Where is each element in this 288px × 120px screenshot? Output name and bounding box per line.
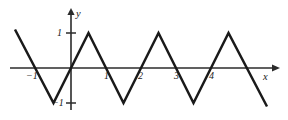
y-axis bbox=[67, 8, 74, 110]
x-tick-label-2: 2 bbox=[138, 71, 143, 81]
x-tick-label-4: 4 bbox=[209, 71, 214, 81]
plot-canvas bbox=[0, 0, 288, 120]
x-axis bbox=[10, 64, 280, 71]
x-tick-label-3: 3 bbox=[174, 71, 179, 81]
y-axis-arrow-icon bbox=[67, 8, 74, 15]
triangle-wave-figure: y x 1 −1 −1 1 2 3 4 bbox=[0, 0, 288, 120]
x-axis-label: x bbox=[263, 72, 268, 83]
x-tick-label-1: 1 bbox=[104, 71, 109, 81]
y-axis-label: y bbox=[76, 9, 81, 20]
y-tick-label-neg1: −1 bbox=[52, 98, 64, 108]
x-axis-arrow-icon bbox=[272, 64, 280, 71]
y-tick-label-1: 1 bbox=[57, 28, 62, 38]
x-tick-label-neg1: −1 bbox=[26, 71, 38, 81]
